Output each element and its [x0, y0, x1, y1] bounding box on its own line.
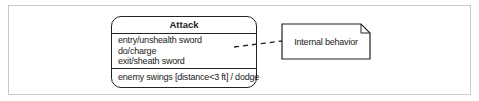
- note-text: Internal behavior: [282, 24, 370, 59]
- note-anchor-dashed-line: [234, 41, 282, 47]
- connectors: [0, 0, 479, 101]
